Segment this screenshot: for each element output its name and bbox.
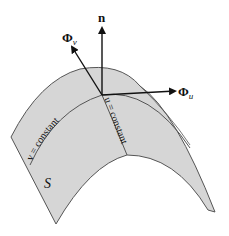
surface-label: S — [44, 176, 51, 191]
surface-diagram: v = constant u = constant n Φv Φu S — [0, 0, 229, 236]
normal-label: n — [98, 10, 106, 25]
phi-v-label: Φv — [62, 30, 77, 47]
phi-u-label: Φu — [178, 84, 194, 101]
